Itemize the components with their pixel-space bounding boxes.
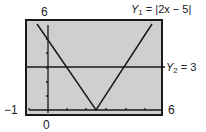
graph-plot — [27, 21, 165, 118]
y1-equation-label: Y1 = |2x − 5| — [131, 3, 191, 19]
x-max-label: 6 — [168, 104, 175, 116]
origin-label: 0 — [43, 119, 50, 131]
calculator-screen — [25, 19, 163, 116]
y-max-label: 6 — [41, 6, 48, 18]
y2-equation-label: Y2 = 3 — [166, 61, 196, 77]
x-min-label: −1 — [4, 104, 18, 116]
